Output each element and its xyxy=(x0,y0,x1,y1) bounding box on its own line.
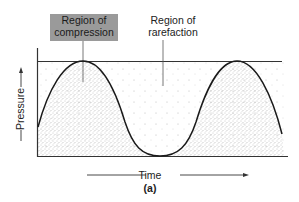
rarefaction-label-line2: rarefaction xyxy=(135,26,211,38)
panel-label: (a) xyxy=(140,182,160,194)
rarefaction-label-line1: Region of xyxy=(135,14,211,26)
rarefaction-label: Region of rarefaction xyxy=(135,14,211,38)
compression-label-box: Region of compression xyxy=(50,14,118,41)
y-axis-label: Pressure xyxy=(14,67,26,151)
x-axis-label: Time xyxy=(120,169,180,181)
time-arrow-head-icon xyxy=(243,173,249,177)
compression-label-line1: Region of xyxy=(50,14,118,26)
compression-label-line2: compression xyxy=(50,26,118,38)
